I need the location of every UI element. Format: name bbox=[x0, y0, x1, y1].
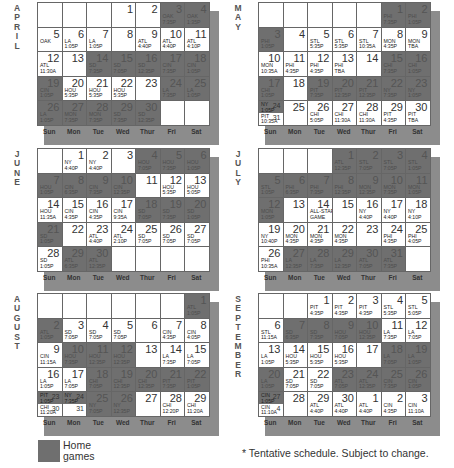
day-cell: 28SD1:05P bbox=[38, 247, 63, 272]
game-info: LA1:05P bbox=[408, 354, 422, 365]
day-cell: 22MON4:35P bbox=[333, 223, 358, 248]
game-time: 4:05P bbox=[187, 334, 201, 340]
game-info: MON1:05P bbox=[261, 209, 275, 220]
game-info: SD7:05P bbox=[89, 330, 103, 341]
weekday-header: SunMonTueWedThurFriSat bbox=[37, 417, 209, 428]
game-info: ATL2:10P bbox=[114, 234, 128, 245]
game-info: LA1:05P bbox=[89, 39, 103, 50]
home-game-cell: 24LA7:35P bbox=[161, 77, 186, 102]
day-cell: 13 bbox=[284, 198, 309, 223]
game-info: HOU12:35P bbox=[114, 354, 130, 365]
day-number: 14 bbox=[366, 52, 378, 64]
game-time: 4:35P bbox=[335, 310, 349, 316]
day-number: 6 bbox=[348, 28, 354, 40]
game-info: SD7:35P bbox=[163, 209, 177, 220]
game-info: HOU5:35P bbox=[163, 185, 177, 196]
game-time: 5:35P bbox=[163, 189, 177, 195]
weekday-header: SunMonTueWedThurFriSat bbox=[258, 272, 430, 283]
game-info: MON4:35P bbox=[384, 39, 398, 50]
game-info: HOU5:35P bbox=[65, 88, 79, 99]
game-info: PHI7:35P bbox=[384, 14, 398, 25]
day-number: 4 bbox=[421, 149, 427, 161]
day-number: 28 bbox=[293, 392, 305, 404]
game-time: 4:35P bbox=[89, 214, 103, 220]
day-cell bbox=[284, 149, 309, 174]
game-time: 12:35P bbox=[138, 383, 154, 389]
game-info: LA7:35P bbox=[163, 354, 177, 365]
day-number: 8 bbox=[323, 319, 329, 331]
day-number: 4 bbox=[277, 405, 281, 413]
half-day-bottom: 4CIN11:10A bbox=[259, 404, 283, 416]
game-info: CHI7:05P bbox=[89, 379, 103, 390]
game-time: 7:35P bbox=[89, 117, 103, 123]
game-info: CHI11:30A bbox=[335, 112, 351, 123]
day-cell: 4STL5:35P bbox=[382, 294, 407, 319]
game-info: CIN7:35P bbox=[163, 63, 177, 74]
day-number: 7 bbox=[299, 319, 305, 331]
day-cell: 22HOU5:35P bbox=[112, 77, 137, 102]
game-time: 4:35P bbox=[286, 238, 300, 244]
game-info: CHI12:35P bbox=[114, 379, 130, 390]
game-time: 4:35P bbox=[310, 68, 324, 74]
game-info: STL7:05P bbox=[384, 160, 398, 171]
day-number: 6 bbox=[151, 319, 157, 331]
weekday-tue: Tue bbox=[86, 272, 111, 283]
game-time: 11:30A bbox=[40, 68, 56, 74]
home-game-cell: 10HOU7:35P bbox=[63, 343, 88, 368]
day-cell: 16LA1:05P bbox=[38, 368, 63, 393]
game-time: 4:35P bbox=[335, 238, 349, 244]
game-time: 11:30A bbox=[335, 117, 351, 123]
day-cell: 12HOU5:35P bbox=[161, 174, 186, 199]
game-time: 6:35P bbox=[286, 334, 300, 340]
day-number: 22 bbox=[72, 223, 84, 235]
day-number: 23 bbox=[366, 223, 378, 235]
game-time: 5:05P bbox=[310, 117, 324, 123]
home-game-cell: 25NY7:05P bbox=[87, 392, 112, 417]
game-time: 5:35P bbox=[89, 92, 103, 98]
home-game-cell: 6HOU1:05P bbox=[185, 149, 210, 174]
weekday-wed: Wed bbox=[111, 126, 136, 137]
day-cell: 27SD7:05P bbox=[185, 223, 210, 248]
day-number: 9 bbox=[102, 174, 108, 186]
game-time: 1:05P bbox=[261, 214, 275, 220]
day-cell: 23 bbox=[136, 77, 161, 102]
day-number: 2 bbox=[421, 3, 427, 15]
game-info: SD7:05P bbox=[138, 209, 152, 220]
game-time: 4:40P bbox=[384, 214, 398, 220]
day-cell: 9MONTBA bbox=[406, 28, 431, 53]
game-info: STL11:15A bbox=[261, 330, 277, 341]
game-time: 1:05P bbox=[261, 189, 275, 195]
weekday-tue: Tue bbox=[86, 126, 111, 137]
month-letter: L bbox=[0, 42, 34, 51]
day-number: 3 bbox=[274, 28, 280, 40]
day-number: 8 bbox=[397, 28, 403, 40]
game-time: 12:35P bbox=[359, 92, 375, 98]
day-cell: 25PHI4:05P bbox=[406, 223, 431, 248]
game-info: SD1:05P bbox=[40, 234, 54, 245]
day-cell bbox=[308, 3, 333, 28]
day-cell bbox=[185, 247, 210, 272]
game-time: 7:35P bbox=[384, 263, 398, 269]
game-time: 11:20A bbox=[187, 408, 203, 414]
home-game-cell: 1PHI7:35P bbox=[382, 3, 407, 28]
game-time: 7:05P bbox=[65, 334, 79, 340]
home-game-cell: 22PIT1:05P bbox=[185, 368, 210, 393]
game-info: NY4:10P bbox=[408, 209, 422, 220]
day-cell: 16NY4:40P bbox=[357, 198, 382, 223]
day-cell: 17 bbox=[357, 343, 382, 368]
game-time: 1:05P bbox=[261, 92, 275, 98]
game-time: 7:35P bbox=[384, 334, 398, 340]
game-info: NY1:05P bbox=[408, 88, 422, 99]
game-info: PITTBA bbox=[408, 112, 418, 123]
game-time: 1:05P bbox=[187, 310, 201, 316]
game-time: 12:35P bbox=[286, 263, 302, 269]
weekday-header: SunMonTueWedThurFriSat bbox=[258, 417, 430, 428]
game-time: GAME bbox=[310, 214, 325, 220]
home-game-cell: 27LA12:35P bbox=[284, 247, 309, 272]
game-info: SD1:05P bbox=[187, 209, 201, 220]
home-game-cell: 21SD1:05P bbox=[38, 223, 63, 248]
month-letter: R bbox=[221, 370, 255, 379]
day-cell: 6 bbox=[136, 319, 161, 344]
game-info: SD7:05P bbox=[187, 234, 201, 245]
weekday-sat: Sat bbox=[405, 126, 430, 137]
